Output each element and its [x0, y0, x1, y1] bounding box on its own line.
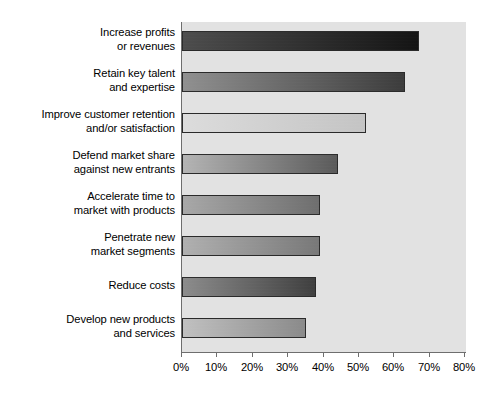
bar-chart: Increase profits or revenues Retain key …	[0, 0, 497, 393]
x-tick-0	[181, 352, 182, 357]
x-tick-70	[429, 352, 430, 357]
category-label-6: Reduce costs	[0, 279, 175, 293]
bar-7	[182, 318, 306, 338]
bar-1	[182, 72, 405, 92]
x-tick-80	[464, 352, 465, 357]
category-label-5: Penetrate new market segments	[0, 231, 175, 258]
category-label-2: Improve customer retention and/or satisf…	[0, 108, 175, 135]
x-tick-10	[216, 352, 217, 357]
x-tick-label-80: 80%	[442, 360, 486, 374]
category-label-0: Increase profits or revenues	[0, 26, 175, 53]
x-tick-60	[393, 352, 394, 357]
category-label-1: Retain key talent and expertise	[0, 67, 175, 94]
x-tick-40	[323, 352, 324, 357]
plot-area	[181, 22, 466, 352]
bar-3	[182, 154, 338, 174]
category-axis-labels: Increase profits or revenues Retain key …	[0, 22, 175, 352]
bar-6	[182, 277, 316, 297]
bar-2	[182, 113, 366, 133]
bar-5	[182, 236, 320, 256]
bar-4	[182, 195, 320, 215]
x-tick-20	[252, 352, 253, 357]
x-tick-50	[358, 352, 359, 357]
x-tick-30	[287, 352, 288, 357]
category-label-3: Defend market share against new entrants	[0, 149, 175, 176]
category-label-7: Develop new products and services	[0, 313, 175, 340]
bar-0	[182, 31, 419, 51]
category-label-4: Accelerate time to market with products	[0, 190, 175, 217]
